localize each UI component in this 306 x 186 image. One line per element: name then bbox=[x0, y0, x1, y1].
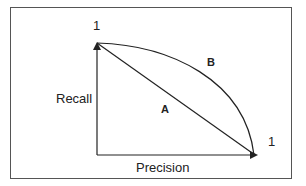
diagram-frame bbox=[11, 8, 292, 179]
recall-axis-label: Recall bbox=[56, 91, 92, 106]
x-axis-max-label: 1 bbox=[268, 134, 275, 149]
curve-a-label: A bbox=[161, 103, 169, 115]
precision-axis-label: Precision bbox=[136, 160, 189, 175]
curve-b-label: B bbox=[207, 56, 215, 68]
y-axis-max-label: 1 bbox=[93, 18, 100, 33]
precision-recall-diagram: 1 1 Recall Precision A B bbox=[0, 0, 306, 186]
